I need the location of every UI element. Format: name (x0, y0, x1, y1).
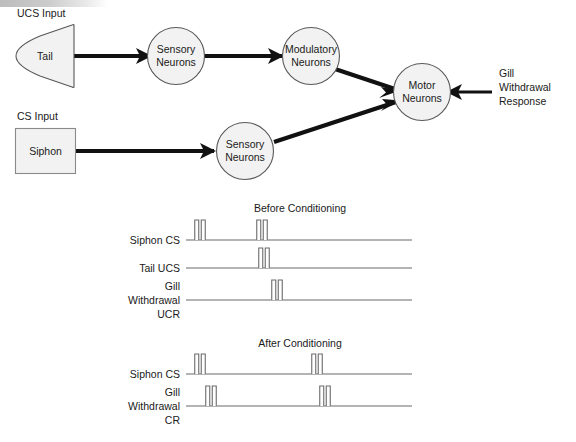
trace-row: Tail UCS (139, 248, 412, 274)
trace-pulse (263, 220, 267, 240)
siphon-node-label: Siphon (29, 145, 62, 157)
trace-pulse (265, 248, 269, 268)
gill-withdrawal-response-label: Gill Withdrawal Response (499, 67, 551, 107)
chart-panel-after-conditioning: After ConditioningSiphon CSGillWithdrawa… (128, 337, 412, 426)
ucs-input-label: UCS Input (17, 7, 66, 19)
tail-node[interactable]: Tail (16, 25, 74, 88)
trace-pulse (257, 220, 261, 240)
figure-svg: UCS Input Tail CS Input Siphon Sensory N… (0, 0, 576, 442)
output-label-line1: Gill (499, 67, 514, 79)
motor-neurons-label-line2: Neurons (402, 92, 442, 104)
trace-pulse (259, 248, 263, 268)
trace-pulse (201, 354, 205, 374)
trace-row: Siphon CS (130, 220, 412, 246)
connector-modulatory-to-motor (332, 68, 398, 90)
modulatory-neurons-node[interactable]: Modulatory Neurons (283, 28, 340, 85)
trace-pulse (312, 354, 316, 374)
sensory-neurons-cs-label-line1: Sensory (226, 138, 265, 150)
trace-row: Siphon CS (130, 354, 412, 380)
trace-pulse (212, 386, 216, 406)
trace-pulse (318, 354, 322, 374)
trace-row-label: Tail UCS (139, 262, 180, 274)
sensory-neurons-ucs-label-line2: Neurons (156, 56, 196, 68)
trace-pulse (195, 354, 199, 374)
panel-title-before: Before Conditioning (254, 202, 346, 214)
trace-row: GillWithdrawalUCR (128, 280, 412, 320)
sensory-neurons-cs-label-line2: Neurons (225, 151, 265, 163)
diagram-canvas: UCS Input Tail CS Input Siphon Sensory N… (0, 0, 576, 442)
sensory-neurons-ucs-label-line1: Sensory (157, 43, 196, 55)
trace-pulse (278, 280, 282, 300)
modulatory-neurons-label-line2: Neurons (291, 56, 331, 68)
trace-row-label: Siphon CS (130, 368, 180, 380)
trace-row-label: Withdrawal (128, 400, 180, 412)
trace-row: GillWithdrawalCR (128, 386, 412, 426)
modulatory-neurons-label-line1: Modulatory (285, 43, 338, 55)
trace-pulse (195, 220, 199, 240)
trace-row-label: Siphon CS (130, 234, 180, 246)
motor-neurons-label-line1: Motor (409, 79, 436, 91)
panel-title-after: After Conditioning (258, 337, 342, 349)
trace-pulse (206, 386, 210, 406)
siphon-node[interactable]: Siphon (16, 129, 76, 174)
trace-pulse (272, 280, 276, 300)
trace-row-label: CR (165, 414, 181, 426)
motor-neurons-node[interactable]: Motor Neurons (394, 64, 451, 121)
cs-input-label: CS Input (17, 110, 58, 122)
tail-node-label: Tail (37, 50, 53, 62)
trace-row-label: Gill (165, 386, 180, 398)
trace-pulse (326, 386, 330, 406)
output-label-line3: Response (499, 95, 546, 107)
chart-panel-before-conditioning: Before ConditioningSiphon CSTail UCSGill… (128, 202, 412, 320)
trace-row-label: Gill (165, 280, 180, 292)
sensory-neurons-cs-node[interactable]: Sensory Neurons (217, 123, 274, 180)
sensory-neurons-ucs-node[interactable]: Sensory Neurons (148, 28, 205, 85)
trace-row-label: Withdrawal (128, 294, 180, 306)
output-label-line2: Withdrawal (499, 81, 551, 93)
connector-sensory-to-motor (274, 101, 399, 142)
trace-row-label: UCR (157, 308, 180, 320)
trace-pulse (201, 220, 205, 240)
trace-pulse (320, 386, 324, 406)
